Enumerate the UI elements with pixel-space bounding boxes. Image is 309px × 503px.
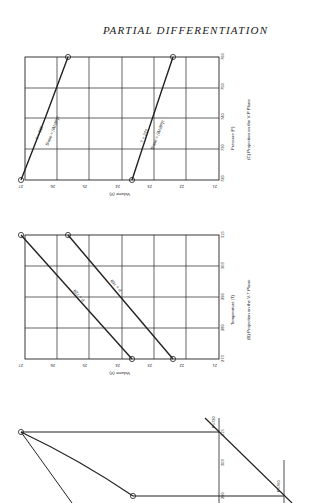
tick: 730: [220, 144, 225, 151]
x-axis-label: Pressure (P): [230, 126, 235, 150]
tick: 740: [220, 113, 225, 120]
chart-b-grid: [25, 235, 219, 359]
chart-c-caption: (C) Projection on the V-P Plane: [246, 99, 251, 160]
tick: 27: [18, 184, 23, 189]
tick: 315: [220, 231, 225, 238]
slope-label: Slope = (∂V/∂P)T: [149, 119, 166, 151]
tick: 290: [220, 293, 225, 300]
tick: 24: [115, 363, 120, 368]
figure: 720 730 740 750 760 Pressure (P) (C) Pro…: [0, 0, 309, 503]
tick: 26: [50, 363, 55, 368]
tick: 22: [179, 363, 184, 368]
tick: 315: [220, 429, 225, 436]
pressure-label: P=720: [211, 416, 216, 428]
chart-b-caption: (B) Projection on the V-T Plane: [246, 279, 251, 340]
series-label: P = 720: [72, 288, 86, 303]
curve-T273: [132, 57, 173, 180]
pressure-label: P=760: [276, 480, 281, 492]
tick: 26: [50, 184, 55, 189]
tick: 750: [220, 83, 225, 90]
tick: 22: [179, 184, 184, 189]
tick: 303: [220, 459, 225, 466]
tick: 25: [82, 184, 87, 189]
tick: 27: [18, 363, 23, 368]
tick: 273: [220, 355, 225, 362]
slope-label: Slope = (∂V/∂P)T: [44, 115, 61, 147]
tick: 23: [147, 363, 152, 368]
diagram-a: [18, 418, 292, 503]
tick: 280: [220, 324, 225, 331]
y-axis-label: Volume (V): [109, 371, 130, 376]
y-axis-label: Volume (V): [109, 192, 130, 197]
tick: 25: [82, 363, 87, 368]
tick: 24: [115, 184, 120, 189]
tick: 720: [220, 175, 225, 182]
tick: 303: [220, 262, 225, 269]
series-label: T = 315: [34, 125, 44, 141]
series-label: T = 273: [139, 128, 149, 144]
curve-T315: [21, 57, 68, 180]
tick: 23: [147, 184, 152, 189]
tick: 760: [220, 53, 225, 60]
tick: 21: [212, 363, 217, 368]
tick: 290: [220, 492, 225, 499]
tick: 21: [212, 184, 217, 189]
x-axis-label: Temperature (T): [230, 294, 235, 325]
